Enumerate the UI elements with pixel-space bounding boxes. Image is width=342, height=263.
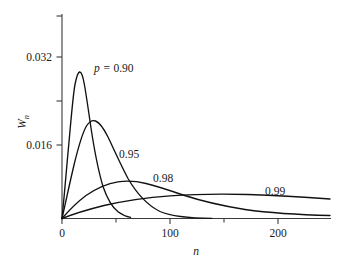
chart-figure: 0.032 0.016 0 100 200 n Wn p =0.90 0.95 … — [0, 0, 342, 263]
x-tick-label-0: 0 — [59, 227, 65, 239]
x-tick-label-200: 200 — [269, 227, 287, 239]
y-axis-title-sub: n — [22, 115, 31, 119]
curve-p-090 — [62, 72, 131, 219]
y-axis-title: Wn — [16, 115, 31, 129]
y-tick-label-0016: 0.016 — [26, 139, 52, 151]
x-tick-label-100: 100 — [161, 227, 179, 239]
y-tick-label-0032: 0.032 — [26, 51, 52, 63]
curve-annotation-090: p =0.90 — [93, 62, 134, 75]
curve-annotation-098: 0.98 — [153, 172, 173, 184]
curve-annotation-090-value: 0.90 — [113, 62, 133, 74]
curve-annotation-095: 0.95 — [119, 148, 139, 160]
curve-annotation-090-prefix: p = — [93, 62, 110, 75]
curve-annotation-099: 0.99 — [265, 185, 285, 197]
curve-p-099 — [62, 194, 330, 218]
curve-p-095 — [62, 121, 212, 219]
curve-p-098 — [62, 181, 330, 218]
y-axis-title-text: Wn — [16, 115, 31, 129]
chart-plot-area: 0.032 0.016 0 100 200 n Wn p =0.90 0.95 … — [0, 0, 342, 263]
x-axis-title: n — [193, 245, 199, 257]
